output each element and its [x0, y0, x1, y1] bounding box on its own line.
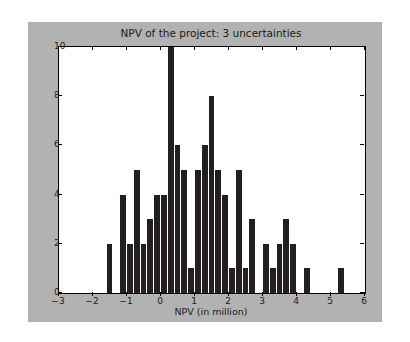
- x-axis-tick-label: −1: [119, 296, 132, 306]
- screenshot-root: NPV of the project: 3 uncertainties NPV …: [0, 0, 410, 342]
- x-axis-tick-top: [296, 46, 297, 50]
- histogram-bar: [222, 195, 228, 293]
- x-axis-tick-top: [262, 46, 263, 50]
- y-axis-tick-label: 2: [54, 238, 60, 248]
- histogram-bar: [249, 219, 255, 293]
- matplotlib-figure: NPV of the project: 3 uncertainties NPV …: [28, 22, 382, 322]
- x-axis-tick-top: [194, 46, 195, 50]
- y-axis-tick-right: [360, 144, 364, 145]
- histogram-bar: [229, 268, 235, 293]
- y-axis-tick-right: [360, 292, 364, 293]
- y-axis-tick-right: [360, 46, 364, 47]
- x-axis-tick-top: [364, 46, 365, 50]
- histogram-bar: [304, 268, 310, 293]
- x-axis-tick-label: 0: [157, 296, 163, 306]
- x-axis-label: NPV (in million): [58, 306, 364, 317]
- histogram-bar: [141, 244, 147, 293]
- histogram-bar: [120, 195, 126, 293]
- histogram-bar: [188, 268, 194, 293]
- x-axis-tick-label: 3: [259, 296, 265, 306]
- histogram-bar: [202, 145, 208, 293]
- histogram-bar: [277, 244, 283, 293]
- histogram-bar: [154, 195, 160, 293]
- y-axis-tick-right: [360, 194, 364, 195]
- histogram-bar: [161, 195, 167, 293]
- x-axis-tick-label: 6: [361, 296, 367, 306]
- histogram-bar: [338, 268, 344, 293]
- x-axis-tick-label: −3: [51, 296, 64, 306]
- x-axis-tick-label: 4: [293, 296, 299, 306]
- histogram-bar: [181, 170, 187, 293]
- x-axis-tick-label: −2: [85, 296, 98, 306]
- x-axis-tick-label: 1: [191, 296, 197, 306]
- x-axis-tick-top: [92, 46, 93, 50]
- histogram-bar: [127, 244, 133, 293]
- y-axis-tick-label: 0: [54, 287, 60, 297]
- x-axis-tick-label: 5: [327, 296, 333, 306]
- x-axis-tick-top: [330, 46, 331, 50]
- histogram-bar: [107, 244, 113, 293]
- histogram-bar: [270, 268, 276, 293]
- histogram-bar: [134, 170, 140, 293]
- histogram-bar: [195, 170, 201, 293]
- x-axis-tick-top: [160, 46, 161, 50]
- x-axis-tick-top: [228, 46, 229, 50]
- y-axis-tick-label: 6: [54, 139, 60, 149]
- histogram-bar: [209, 96, 215, 293]
- histogram-bar: [263, 244, 269, 293]
- histogram-bar: [243, 268, 249, 293]
- histogram-bar: [215, 170, 221, 293]
- plot-axes: [58, 46, 366, 294]
- y-axis-tick-label: 10: [54, 41, 65, 51]
- histogram-bar: [236, 170, 242, 293]
- x-axis-tick-top: [126, 46, 127, 50]
- histogram-bar: [147, 219, 153, 293]
- y-axis-tick-right: [360, 243, 364, 244]
- plot-area: [59, 47, 365, 293]
- histogram-bar: [168, 47, 174, 293]
- histogram-bar: [290, 244, 296, 293]
- histogram-bar: [175, 145, 181, 293]
- histogram-bar: [283, 219, 289, 293]
- chart-title: NPV of the project: 3 uncertainties: [58, 27, 364, 39]
- y-axis-tick-right: [360, 95, 364, 96]
- x-axis-tick-label: 2: [225, 296, 231, 306]
- y-axis-tick-label: 4: [54, 189, 60, 199]
- y-axis-tick-label: 8: [54, 90, 60, 100]
